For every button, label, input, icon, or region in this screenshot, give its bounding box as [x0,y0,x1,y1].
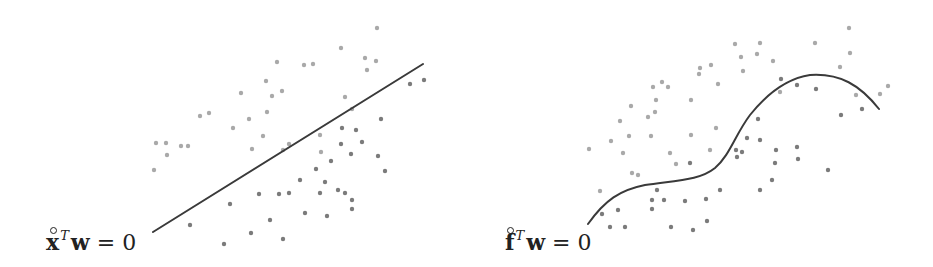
data-point-class-b [774,148,778,152]
data-point-class-a [265,110,269,114]
data-point-class-b [704,197,708,201]
data-point-class-a [280,89,284,93]
data-point-class-b [329,159,333,163]
diagram-canvas [0,0,933,267]
data-point-class-b [683,199,687,203]
data-point-class-a [627,134,631,138]
data-point-class-a [629,104,633,108]
data-point-class-a [660,80,664,84]
data-point-class-a [674,162,678,166]
data-point-class-b [408,82,412,86]
data-point-class-a [886,84,890,88]
data-point-class-b [616,208,620,212]
data-point-class-b [718,188,722,192]
data-point-class-b [814,87,818,91]
nonlinear-decision-boundary [588,75,879,224]
data-point-class-b [323,180,327,184]
data-point-class-a [311,62,315,66]
data-point-class-b [350,198,354,202]
data-point-class-a [755,52,759,56]
data-point-class-b [655,188,659,192]
data-point-class-b [222,242,226,246]
data-point-class-a [838,65,842,69]
data-point-class-b [669,225,673,229]
data-point-class-b [623,225,627,229]
data-point-class-b [796,157,800,161]
data-point-class-a [365,68,369,72]
data-point-class-a [198,114,202,118]
data-point-class-b [422,78,426,82]
data-point-class-a [239,91,243,95]
data-point-class-b [770,178,774,182]
data-point-class-a [636,173,640,177]
data-point-class-b [314,167,318,171]
data-point-class-a [374,59,378,63]
data-point-class-b [795,145,799,149]
data-point-class-a [302,63,306,67]
data-point-class-a [697,72,701,76]
data-point-class-b [350,207,354,211]
data-point-class-b [354,128,358,132]
data-point-class-b [795,83,799,87]
data-point-class-a [646,115,650,119]
data-point-class-a [319,150,323,154]
data-point-class-a [878,92,882,96]
data-point-class-a [689,98,693,102]
data-point-class-a [275,60,279,64]
data-point-class-b [600,212,604,216]
equals-zero: = 0 [552,230,591,255]
data-point-class-a [714,126,718,130]
data-point-class-a [848,51,852,55]
data-point-class-b [688,161,692,165]
data-point-class-a [186,144,190,148]
data-point-class-b [773,161,777,165]
transpose-superscript: T [60,228,69,243]
right-scatter-points [587,26,890,232]
f-vector-symbol: f [505,229,514,255]
data-point-class-b [336,188,340,192]
data-point-class-b [734,148,738,152]
data-point-class-b [758,188,762,192]
data-point-class-b [826,168,830,172]
data-point-class-b [257,192,261,196]
data-point-class-b [340,126,344,130]
data-point-class-b [281,237,285,241]
w-vector-symbol: w [526,229,545,255]
data-point-class-a [654,98,658,102]
data-point-class-a [609,139,613,143]
data-point-class-a [716,82,720,86]
data-point-class-b [650,207,654,211]
data-point-class-b [349,152,353,156]
data-point-class-a [666,85,670,89]
data-point-class-a [778,90,782,94]
data-point-class-b [735,155,739,159]
left-equation-label: xTw = 0 [46,228,136,255]
data-point-class-a [165,153,169,157]
data-point-class-b [303,211,307,215]
data-point-class-b [287,191,291,195]
data-point-class-b [650,198,654,202]
data-point-class-b [379,117,383,121]
data-point-class-b [318,191,322,195]
data-point-class-a [708,148,712,152]
data-point-class-a [698,66,702,70]
left-scatter-points [152,26,426,246]
data-point-class-a [231,126,235,130]
data-point-class-b [298,178,302,182]
data-point-class-b [343,191,347,195]
data-point-class-a [733,42,737,46]
data-point-class-b [277,192,281,196]
data-point-class-a [375,26,379,30]
data-point-class-a [771,59,775,63]
data-point-class-a [339,46,343,50]
data-point-class-a [847,26,851,30]
data-point-class-b [756,117,760,121]
data-point-class-b [339,142,343,146]
data-point-class-a [653,110,657,114]
data-point-class-b [228,202,232,206]
data-point-class-a [207,111,211,115]
data-point-class-b [383,169,387,173]
data-point-class-a [154,141,158,145]
linear-decision-boundary [153,64,423,232]
data-point-class-a [621,151,625,155]
